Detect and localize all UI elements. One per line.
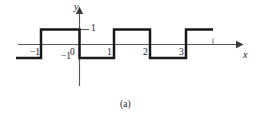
x-tick-label-3: 3 <box>179 48 184 58</box>
x-tick-label-1: 1 <box>107 48 112 58</box>
x-tick-label-2: 2 <box>143 48 148 58</box>
x-tick-label-neg1: −1 <box>30 48 40 58</box>
y-tick-label-pos1: 1 <box>91 24 96 34</box>
figure-caption: (a) <box>120 100 131 110</box>
y-axis-label: y <box>74 2 78 12</box>
y-tick-label-neg1: −1 <box>61 52 71 62</box>
x-axis-label: x <box>243 50 247 60</box>
x-axis-arrowhead <box>236 41 244 48</box>
figure-container: y x −1 0 1 2 3 1 −1 (a) <box>0 0 261 127</box>
